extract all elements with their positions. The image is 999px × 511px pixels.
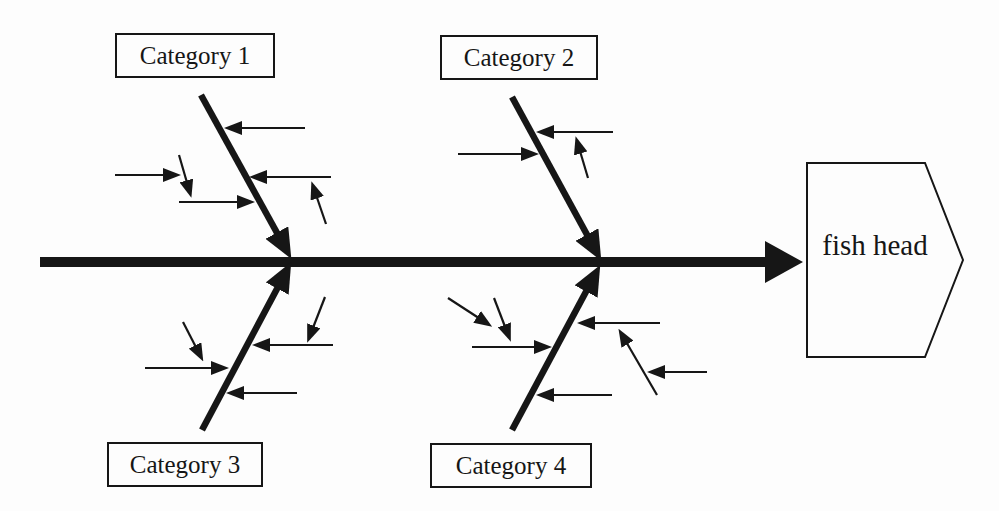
bone-category-4 — [512, 273, 596, 430]
category-label-4: Category 4 — [456, 453, 566, 478]
cause-arrow-c3-1 — [309, 297, 325, 338]
category-label-3: Category 3 — [130, 452, 240, 477]
cause-arrow-c4-1 — [448, 298, 488, 324]
cause-arrow-c1-3 — [313, 186, 326, 224]
cause-arrow-c3-3 — [183, 322, 201, 357]
category-box-2: Category 2 — [440, 35, 598, 80]
cause-arrow-c1-5 — [179, 155, 190, 193]
bone-category-3 — [202, 270, 287, 430]
bone-category-1 — [201, 95, 287, 251]
category-label-1: Category 1 — [140, 43, 250, 68]
category-box-4: Category 4 — [430, 443, 592, 488]
category-label-2: Category 2 — [464, 45, 574, 70]
cause-arrow-c2-2 — [577, 141, 588, 178]
category-box-1: Category 1 — [115, 33, 275, 78]
bone-category-2 — [512, 97, 597, 253]
category-box-3: Category 3 — [107, 442, 263, 487]
cause-arrow-c4-6 — [621, 333, 657, 395]
cause-arrow-c4-2 — [494, 298, 509, 337]
fish-head-label: fish head — [815, 228, 935, 263]
fishbone-diagram: Category 1 Category 2 Category 3 Categor… — [0, 0, 999, 511]
